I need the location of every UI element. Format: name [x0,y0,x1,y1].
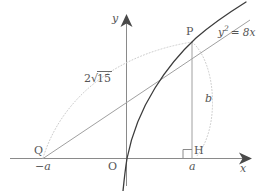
math-figure: y x O P Q H −a a b 2√15 y2= 8x [0,0,278,191]
point-p-label: P [186,26,193,37]
point-h-label: H [194,145,204,156]
chord-qp-line [43,20,250,159]
point-q-label: Q [34,145,43,156]
chord-length-label: 2√15 [84,72,112,85]
arc-q-to-p-dotted [43,42,192,158]
chord-length-coefficient: 2 [84,72,91,85]
equation-rhs: = 8x [231,26,256,38]
y-axis-label: y [112,13,118,24]
chord-length-radicand: 15 [97,71,112,85]
origin-label: O [108,161,117,172]
tick-label-positive-a: a [189,161,196,172]
right-angle-marker [183,150,192,159]
x-axis-label: x [240,163,246,174]
equation-exponent: 2 [224,24,229,33]
curve-equation-label: y2= 8x [218,25,255,37]
tick-label-negative-a: −a [35,161,51,172]
segment-b-label: b [205,93,212,104]
